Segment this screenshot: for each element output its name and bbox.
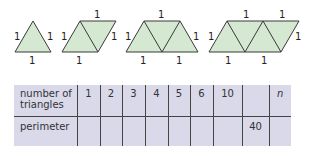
cell: 6 [190,85,213,116]
cell [77,116,100,146]
triangles-row: number of triangles 1 2 3 4 5 6 10 n [14,85,291,116]
shape-1-triangle [15,21,51,52]
svg-text:1: 1 [158,9,164,20]
cell [100,116,122,146]
svg-text:1: 1 [140,55,146,66]
cell [145,116,168,146]
cell [213,116,242,146]
cell [122,116,145,146]
perimeter-row: perimeter 40 [14,116,291,146]
svg-text:1: 1 [76,55,82,66]
svg-text:1: 1 [225,55,231,66]
svg-text:1: 1 [111,31,117,42]
cell [190,116,213,146]
svg-text:1: 1 [295,31,301,42]
svg-text:1: 1 [125,31,131,42]
svg-text:1: 1 [193,31,199,42]
shape-3-trapezoid [126,21,198,52]
cell [168,116,190,146]
svg-text:1: 1 [29,55,35,66]
cell: 5 [168,85,190,116]
svg-text:1: 1 [208,31,214,42]
row-label-triangles: number of triangles [14,85,77,116]
cell-n: n [269,85,291,116]
cell [269,116,291,146]
svg-text:1: 1 [47,31,53,42]
svg-text:1: 1 [94,9,100,20]
row-label-perimeter: perimeter [14,116,77,146]
cell: 2 [100,85,122,116]
svg-text:1: 1 [243,9,249,20]
cell: 1 [77,85,100,116]
perimeter-table: number of triangles 1 2 3 4 5 6 10 n per… [14,85,291,146]
svg-text:1: 1 [14,31,20,42]
triangle-pattern-diagram: 1 1 1 1 1 1 1 1 1 1 1 1 1 1 1 1 1 1 [0,0,313,75]
svg-text:1: 1 [176,55,182,66]
cell: 10 [213,85,242,116]
cell: 3 [122,85,145,116]
svg-text:1: 1 [279,9,285,20]
svg-text:1: 1 [61,31,67,42]
cell-40: 40 [242,116,269,146]
svg-text:1: 1 [261,55,267,66]
cell [242,85,269,116]
cell: 4 [145,85,168,116]
